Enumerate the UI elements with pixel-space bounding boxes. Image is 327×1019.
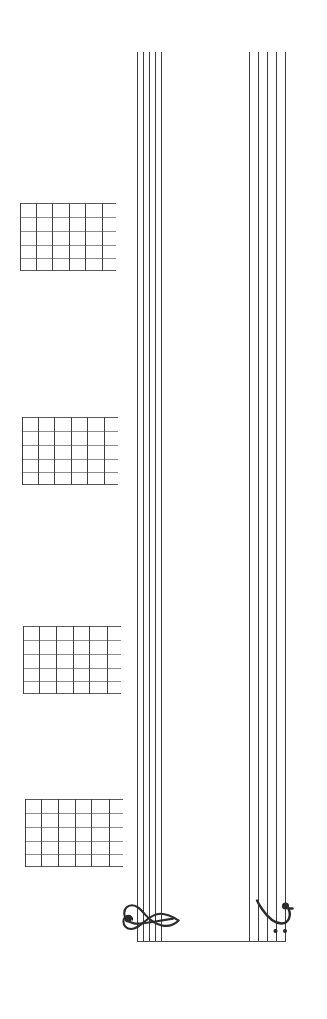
- bass-clef-head: [282, 902, 289, 909]
- staff-line: [285, 52, 286, 942]
- treble-clef-dot: [125, 916, 132, 923]
- staff-line: [258, 52, 259, 942]
- staff-line: [276, 52, 277, 942]
- bass-clef-dot-upper: [283, 929, 287, 933]
- staff-line: [249, 52, 250, 942]
- treble-clef: [115, 885, 185, 955]
- bass-clef: [245, 890, 305, 950]
- bass-clef-dot-lower: [273, 929, 277, 933]
- staff-line: [267, 52, 268, 942]
- sheet-music-page: [0, 0, 327, 1019]
- bass-staff: [0, 0, 327, 1019]
